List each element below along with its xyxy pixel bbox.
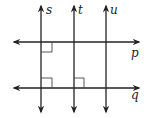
label-p: p <box>131 46 139 60</box>
label-u: u <box>110 3 118 17</box>
label-t: t <box>78 3 83 17</box>
right-angle-mark-s-p <box>41 42 52 52</box>
label-s: s <box>46 3 52 17</box>
right-angle-mark-t-q <box>74 78 84 88</box>
label-q: q <box>131 88 139 102</box>
parallel-perpendicular-lines-diagram: s t u p q <box>0 0 149 118</box>
right-angle-mark-s-q <box>41 78 52 88</box>
